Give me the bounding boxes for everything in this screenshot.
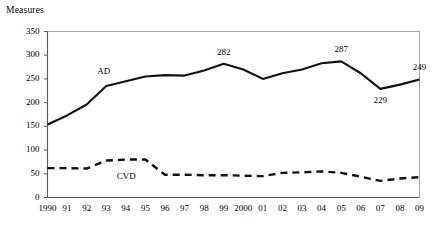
point-label-282: 282	[211, 47, 237, 57]
series-line-cvd	[48, 160, 420, 181]
series-annotation-cvd: CVD	[117, 171, 136, 181]
series-lines	[48, 61, 420, 181]
point-label-229: 229	[367, 95, 393, 105]
line-chart: Measures 050100150200250300350 199091929…	[0, 0, 438, 230]
point-label-249: 249	[407, 62, 433, 72]
plot-area	[0, 0, 438, 230]
point-label-287: 287	[328, 44, 354, 54]
series-annotation-ad: AD	[97, 66, 110, 76]
